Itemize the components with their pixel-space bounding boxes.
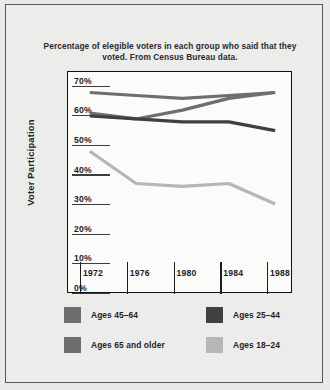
chart-title: Percentage of elegible voters in each gr…	[34, 41, 306, 64]
x-tick-mark	[174, 262, 175, 294]
chart-page: Percentage of elegible voters in each gr…	[0, 0, 330, 390]
legend-item: Ages 18–24	[206, 337, 280, 353]
legend-swatch	[206, 337, 223, 353]
x-tick-mark	[267, 262, 268, 294]
series-line	[90, 93, 275, 119]
legend-swatch	[64, 307, 81, 323]
x-tick-mark	[80, 262, 81, 294]
chart-legend: Ages 45–64Ages 25–44Ages 65 and olderAge…	[28, 305, 312, 367]
y-axis-title: Voter Participation	[25, 108, 36, 218]
x-tick-mark	[220, 262, 221, 294]
x-tick-label: 1988	[270, 268, 290, 278]
outer-frame: Percentage of elegible voters in each gr…	[5, 4, 323, 383]
series-line	[90, 151, 275, 204]
x-tick-label: 1972	[83, 268, 103, 278]
legend-label: Ages 45–64	[91, 310, 138, 320]
legend-item: Ages 65 and older	[64, 337, 165, 353]
legend-item: Ages 25–44	[206, 307, 280, 323]
legend-swatch	[64, 337, 81, 353]
legend-item: Ages 45–64	[64, 307, 138, 323]
x-tick-label: 1984	[223, 268, 243, 278]
plot-lines	[68, 72, 291, 292]
legend-label: Ages 65 and older	[91, 340, 165, 350]
plot-area: 0%10%20%30%40%50%60%70%	[67, 71, 292, 293]
series-line	[90, 116, 275, 131]
legend-swatch	[206, 307, 223, 323]
legend-label: Ages 25–44	[233, 310, 280, 320]
x-tick-label: 1980	[177, 268, 197, 278]
legend-label: Ages 18–24	[233, 340, 280, 350]
x-tick-mark	[127, 262, 128, 294]
x-tick-label: 1976	[130, 268, 150, 278]
